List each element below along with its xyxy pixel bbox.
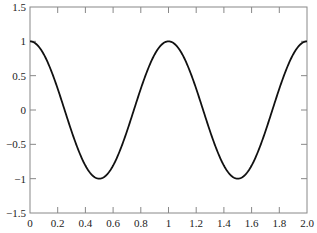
x-tick-label: 1 [166,217,172,229]
x-tick-label: 1.4 [217,217,231,229]
y-tick-label: 0.5 [12,70,26,82]
x-tick-label: 0.8 [134,217,148,229]
y-axis: −1.5−1−0.500.511.5 [6,1,307,219]
x-tick-label: 0 [27,217,33,229]
y-tick-label: 0 [21,104,27,116]
x-tick-label: 1.2 [189,217,203,229]
plot-frame [30,7,307,213]
y-tick-label: −0.5 [6,138,26,150]
y-tick-label: 1 [21,35,27,47]
y-tick-label: −1.5 [6,207,26,219]
y-tick-label: −1 [14,173,26,185]
y-tick-label: 1.5 [12,1,26,13]
data-line [30,41,307,178]
x-tick-label: 1.8 [272,217,286,229]
x-tick-label: 0.2 [51,217,65,229]
x-tick-label: 0.4 [79,217,93,229]
x-tick-label: 0.6 [106,217,120,229]
x-tick-label: 1.6 [245,217,259,229]
line-chart: 00.20.40.60.811.21.41.61.82.0 −1.5−1−0.5… [0,0,317,233]
x-axis: 00.20.40.60.811.21.41.61.82.0 [27,7,314,229]
x-tick-label: 2.0 [300,217,314,229]
